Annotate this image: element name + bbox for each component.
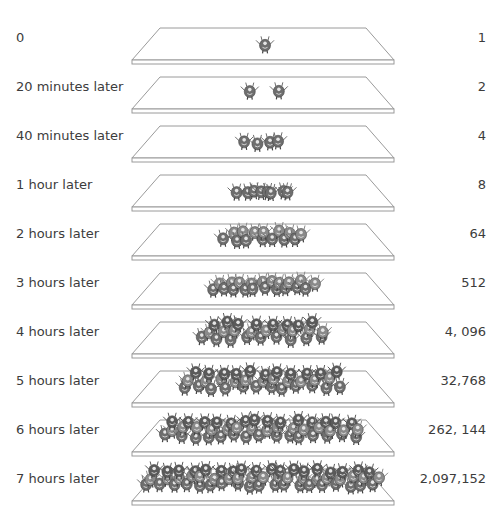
growth-row: 20 minutes later2 [0, 67, 498, 116]
time-label: 4 hours later [16, 324, 99, 339]
petri-plate [128, 165, 398, 213]
petri-plate [128, 459, 398, 507]
count-label: 2 [478, 79, 486, 94]
petri-plate [128, 361, 398, 409]
time-label: 3 hours later [16, 275, 99, 290]
petri-plate [128, 116, 398, 164]
time-label: 20 minutes later [16, 79, 123, 94]
count-label: 512 [461, 275, 486, 290]
petri-plate [128, 410, 398, 458]
count-label: 4 [478, 128, 486, 143]
petri-plate [128, 214, 398, 262]
petri-plate [128, 312, 398, 360]
growth-row: 01 [0, 18, 498, 67]
growth-row: 2 hours later64 [0, 214, 498, 263]
time-label: 0 [16, 30, 24, 45]
growth-row: 3 hours later512 [0, 263, 498, 312]
time-label: 2 hours later [16, 226, 99, 241]
time-label: 1 hour later [16, 177, 92, 192]
count-label: 64 [469, 226, 486, 241]
growth-row: 6 hours later262, 144 [0, 410, 498, 459]
growth-row: 4 hours later4, 096 [0, 312, 498, 361]
time-label: 40 minutes later [16, 128, 123, 143]
time-label: 5 hours later [16, 373, 99, 388]
count-label: 2,097,152 [420, 471, 486, 486]
count-label: 32,768 [441, 373, 487, 388]
growth-row: 5 hours later32,768 [0, 361, 498, 410]
time-label: 7 hours later [16, 471, 99, 486]
count-label: 4, 096 [445, 324, 486, 339]
count-label: 1 [478, 30, 486, 45]
count-label: 8 [478, 177, 486, 192]
growth-row: 7 hours later2,097,152 [0, 459, 498, 508]
growth-row: 40 minutes later4 [0, 116, 498, 165]
petri-plate [128, 18, 398, 66]
growth-row: 1 hour later8 [0, 165, 498, 214]
petri-plate [128, 263, 398, 311]
time-label: 6 hours later [16, 422, 99, 437]
count-label: 262, 144 [428, 422, 486, 437]
petri-plate [128, 67, 398, 115]
